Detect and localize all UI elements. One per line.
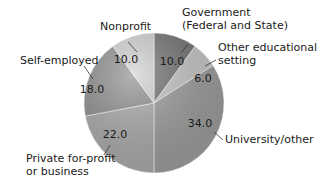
slice-value: 10.0 [160, 55, 185, 68]
pie-chart: 10.06.034.022.018.010.0 Government(Feder… [0, 0, 320, 196]
slice-label: University/other [225, 133, 314, 146]
slice-label: Government(Federal and State) [182, 6, 288, 32]
slice-label: Self-employed [20, 54, 99, 67]
slice-value: 22.0 [103, 128, 128, 141]
slice-label: Private for-profitor business [26, 152, 116, 178]
slice-value: 34.0 [188, 117, 213, 130]
slice-label: Other educationalsetting [218, 41, 317, 67]
slice-value: 10.0 [114, 53, 139, 66]
slice-value: 18.0 [80, 83, 105, 96]
slice-label: Nonprofit [100, 20, 152, 33]
slice-value: 6.0 [194, 72, 212, 85]
